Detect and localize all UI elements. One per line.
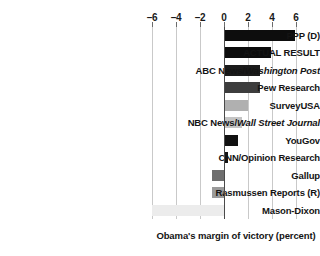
category-label: PPP (D) bbox=[172, 31, 320, 41]
category-label: NBC News/Wall Street Journal bbox=[172, 118, 320, 128]
zero-line bbox=[224, 27, 225, 219]
bar-chart: –6–4–20246 PPP (D)ACTUAL RESULTABC News/… bbox=[0, 0, 320, 256]
category-label: Rasmussen Reports (R) bbox=[172, 188, 320, 198]
category-label: CNN/Opinion Research bbox=[172, 153, 320, 163]
x-axis-label: Obama's margin of victory (percent) bbox=[152, 230, 320, 241]
category-label: Gallup bbox=[172, 171, 320, 181]
category-label: ACTUAL RESULT bbox=[172, 48, 320, 58]
x-tick-mark bbox=[296, 22, 297, 27]
category-label: Pew Research bbox=[172, 83, 320, 93]
category-label: ABC News/Washington Post bbox=[172, 66, 320, 76]
category-label: Mason-Dixon bbox=[172, 206, 320, 216]
category-label: YouGov bbox=[172, 136, 320, 146]
category-label: SurveyUSA bbox=[172, 101, 320, 111]
